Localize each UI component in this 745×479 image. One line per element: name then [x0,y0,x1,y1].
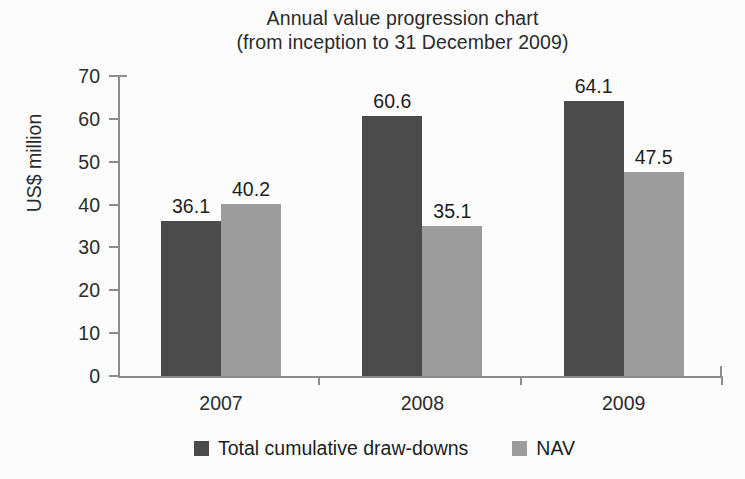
bar-value-label: 36.1 [172,195,210,217]
y-axis-title: US$ million [21,83,47,243]
chart-title-line-2: (from inception to 31 December 2009) [60,30,745,54]
y-axis-tick-label: 0 [89,366,100,386]
y-axis-top-cap [118,75,127,77]
y-axis-tick-label: 40 [78,195,100,215]
legend-swatch-icon [194,441,209,456]
x-axis-tick [721,376,723,385]
bar-value-label: 64.1 [575,75,613,97]
bar-2008-series-1 [422,226,482,376]
y-axis-tick: 60 [109,118,118,120]
y-axis-tick: 0 [109,375,118,377]
x-axis-line [118,376,722,378]
legend-label: NAV [536,437,575,459]
chart-title: Annual value progression chart (from inc… [0,6,745,54]
bar-2009-series-1 [624,172,684,376]
y-axis-line [118,75,120,378]
x-axis-tick [318,376,320,385]
y-axis-tick: 70 [109,75,118,77]
bar-2007-series-1 [221,204,281,376]
legend-label: Total cumulative draw-downs [218,437,468,459]
y-axis-tick-label: 60 [78,109,100,129]
legend-item-1[interactable]: NAV [512,437,575,459]
legend-item-0[interactable]: Total cumulative draw-downs [194,437,468,459]
bar-2007-series-0 [161,221,221,376]
bar-value-label: 35.1 [433,200,471,222]
plot-area: 010203040506070 36.140.260.635.164.147.5 [118,75,722,377]
y-axis-tick: 50 [109,161,118,163]
y-axis-tick: 30 [109,246,118,248]
y-axis-tick: 40 [109,204,118,206]
bar-value-label: 47.5 [635,146,673,168]
y-axis-tick-label: 30 [78,237,100,257]
bar-2008-series-0 [362,116,422,376]
y-axis-tick: 10 [109,332,118,334]
y-axis-tick: 20 [109,289,118,291]
bar-2009-series-0 [564,101,624,376]
y-axis-tick-label: 70 [78,66,100,86]
bar-value-label: 40.2 [232,178,270,200]
y-axis-tick-label: 10 [78,323,100,343]
x-axis-label-2007: 2007 [199,392,242,414]
bar-value-label: 60.6 [373,90,411,112]
y-axis-tick-label: 20 [78,280,100,300]
x-axis-label-2009: 2009 [602,392,645,414]
chart-title-line-1: Annual value progression chart [60,6,745,30]
chart-legend: Total cumulative draw-downsNAV [0,437,745,459]
legend-swatch-icon [512,441,527,456]
y-axis-tick-label: 50 [78,152,100,172]
x-axis-tick [520,376,522,385]
x-axis-label-2008: 2008 [401,392,444,414]
bar-chart: Annual value progression chart (from inc… [0,0,745,479]
